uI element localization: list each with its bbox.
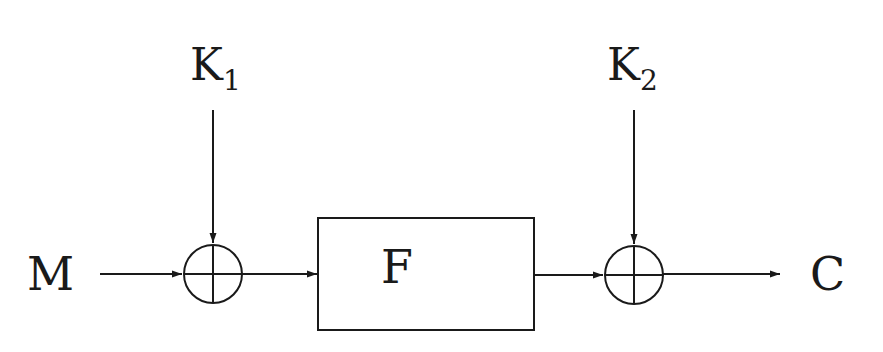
- input-label-m: M: [27, 247, 74, 301]
- cipher-diagram: K1 K2 M C F: [0, 0, 883, 352]
- xor2-icon: [605, 246, 663, 304]
- key1-label: K1: [190, 39, 241, 97]
- key2-label: K2: [607, 39, 658, 97]
- xor1-icon: [184, 245, 242, 303]
- function-box-f: [318, 218, 534, 330]
- function-label-f: F: [381, 240, 413, 294]
- output-label-c: C: [810, 247, 845, 301]
